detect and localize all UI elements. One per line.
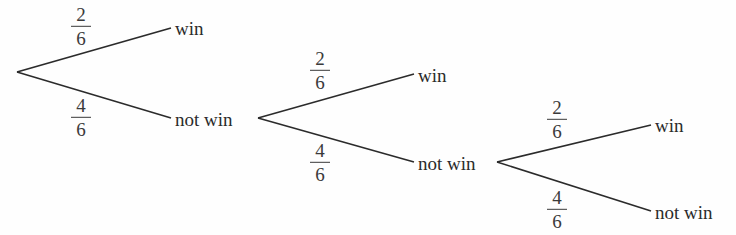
fraction-bar	[547, 209, 567, 210]
fraction-denominator: 6	[552, 122, 562, 142]
tree-edges	[0, 0, 736, 235]
branch-l2-win	[258, 74, 414, 118]
fraction-bar	[71, 117, 91, 118]
fraction-bar	[310, 70, 330, 71]
outcome-label-l2-not-win: not win	[418, 154, 476, 173]
fraction-numerator: 4	[552, 188, 562, 208]
fraction-numerator: 2	[315, 49, 325, 69]
fraction-numerator: 4	[315, 141, 325, 161]
fraction-denominator: 6	[315, 165, 325, 185]
outcome-label-l1-win: win	[175, 19, 204, 38]
fraction-denominator: 6	[315, 73, 325, 93]
outcome-label-l3-not-win: not win	[655, 203, 713, 222]
probability-l1-not-win: 4 6	[69, 96, 93, 140]
probability-l3-win: 2 6	[545, 98, 569, 142]
branch-l3-win	[497, 125, 651, 162]
probability-l2-win: 2 6	[308, 49, 332, 93]
outcome-label-l1-not-win: not win	[175, 110, 233, 129]
branch-l1-win	[17, 28, 171, 72]
outcome-label-l3-win: win	[655, 116, 684, 135]
fraction-bar	[71, 26, 91, 27]
outcome-label-l2-win: win	[418, 66, 447, 85]
probability-tree-diagram: win not win win not win win not win 2 6 …	[0, 0, 736, 235]
probability-l2-not-win: 4 6	[308, 141, 332, 185]
fraction-denominator: 6	[76, 29, 86, 49]
branch-l3-not-win	[497, 162, 651, 211]
probability-l3-not-win: 4 6	[545, 188, 569, 232]
branch-l2-not-win	[258, 118, 414, 162]
fraction-bar	[547, 119, 567, 120]
fraction-numerator: 2	[76, 5, 86, 25]
probability-l1-win: 2 6	[69, 5, 93, 49]
fraction-numerator: 2	[552, 98, 562, 118]
fraction-denominator: 6	[552, 212, 562, 232]
fraction-denominator: 6	[76, 120, 86, 140]
fraction-bar	[310, 162, 330, 163]
fraction-numerator: 4	[76, 96, 86, 116]
branch-l1-not-win	[17, 72, 171, 118]
